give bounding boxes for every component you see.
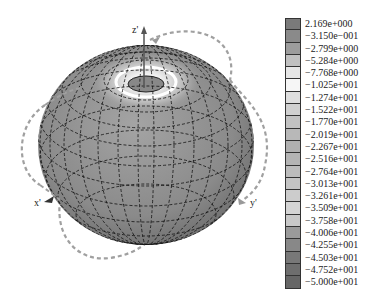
colorbar-swatch	[285, 79, 301, 91]
colorbar-entry: −2.516e+001	[285, 153, 358, 165]
colorbar-label: −2.516e+001	[305, 153, 358, 165]
colorbar-label: −3.509e+001	[305, 202, 358, 214]
colorbar-entry: −3.261e+001	[285, 190, 358, 202]
colorbar-entry: −1.025e+001	[285, 79, 358, 91]
colorbar-swatch	[285, 215, 301, 227]
colorbar-label: −2.267e+001	[305, 141, 358, 153]
colorbar-label: −1.770e+001	[305, 116, 358, 128]
colorbar-swatch	[285, 116, 301, 128]
colorbar-entry: −3.509e+001	[285, 202, 358, 214]
colorbar-label: −2.764e+001	[305, 166, 358, 178]
axis-x: x'	[34, 196, 54, 208]
colorbar-label: −4.752e+001	[305, 264, 358, 276]
colorbar-swatch	[285, 252, 301, 264]
axis-z-label: z'	[132, 24, 138, 35]
colorbar-entry: −2.799e+000	[285, 43, 358, 55]
colorbar-entry: 2.169e+000	[285, 18, 358, 30]
colorbar-swatch	[285, 202, 301, 214]
colorbar-label: −1.025e+001	[305, 79, 358, 91]
colorbar-swatch	[285, 178, 301, 190]
colorbar-label: −2.799e+000	[305, 43, 358, 55]
colorbar-swatch	[285, 153, 301, 165]
colorbar-swatch	[285, 129, 301, 141]
colorbar-swatch	[285, 190, 301, 202]
colorbar-label: −3.758e+001	[305, 215, 358, 227]
colorbar-swatch	[285, 276, 301, 288]
colorbar-label: −3.013e+001	[305, 178, 358, 190]
colorbar-entry: −4.503e+001	[285, 252, 358, 264]
colorbar-label: −1.522e+001	[305, 104, 358, 116]
colorbar-entry: −4.006e+001	[285, 227, 358, 239]
colorbar-entry: −3.013e+001	[285, 178, 358, 190]
colorbar-swatch	[285, 43, 301, 55]
axis-y-label: y'	[250, 197, 257, 208]
colorbar-entry: −4.752e+001	[285, 264, 358, 276]
colorbar-entry: −2.019e+001	[285, 129, 358, 141]
colorbar-label: −5.284e+000	[305, 55, 358, 67]
colorbar-entry: −3.758e+001	[285, 215, 358, 227]
colorbar-swatch	[285, 18, 301, 30]
colorbar-label: 2.169e+000	[305, 18, 353, 30]
colorbar-label: −3.150e−001	[305, 30, 358, 42]
colorbar-entry: −2.267e+001	[285, 141, 358, 153]
axis-x-label: x'	[34, 197, 41, 208]
colorbar-swatch	[285, 227, 301, 239]
colorbar-swatch	[285, 141, 301, 153]
colorbar-entry: −2.764e+001	[285, 166, 358, 178]
colorbar-swatch	[285, 55, 301, 67]
colorbar-entry: −5.000e+001	[285, 276, 358, 288]
colorbar-entry: −5.284e+000	[285, 55, 358, 67]
colorbar-swatch	[285, 104, 301, 116]
top-ring-core	[128, 76, 164, 92]
colorbar-entry: −1.522e+001	[285, 104, 358, 116]
colorbar-label: −3.261e+001	[305, 190, 358, 202]
radiation-pattern-plot: z' x' y'	[0, 0, 280, 275]
colorbar-entry: −1.274e+001	[285, 92, 358, 104]
axis-y: y'	[238, 197, 257, 208]
colorbar-entry: −7.768e+000	[285, 67, 358, 79]
colorbar-label: −7.768e+000	[305, 67, 358, 79]
colorbar-label: −2.019e+001	[305, 129, 358, 141]
colorbar-entry: −1.770e+001	[285, 116, 358, 128]
colorbar-swatch	[285, 264, 301, 276]
colorbar-label: −1.274e+001	[305, 92, 358, 104]
colorbar-label: −4.006e+001	[305, 227, 358, 239]
colorbar-swatch	[285, 67, 301, 79]
colorbar-entry: −4.255e+001	[285, 239, 358, 251]
colorbar-label: −4.503e+001	[305, 252, 358, 264]
colorbar-swatch	[285, 92, 301, 104]
colorbar-swatch	[285, 30, 301, 42]
colorbar-swatch	[285, 166, 301, 178]
colorbar-label: −5.000e+001	[305, 276, 358, 288]
colorbar-entry: −3.150e−001	[285, 30, 358, 42]
colorbar-swatch	[285, 239, 301, 251]
colorbar-label: −4.255e+001	[305, 239, 358, 251]
colorbar-legend: 2.169e+000−3.150e−001−2.799e+000−5.284e+…	[285, 18, 358, 289]
